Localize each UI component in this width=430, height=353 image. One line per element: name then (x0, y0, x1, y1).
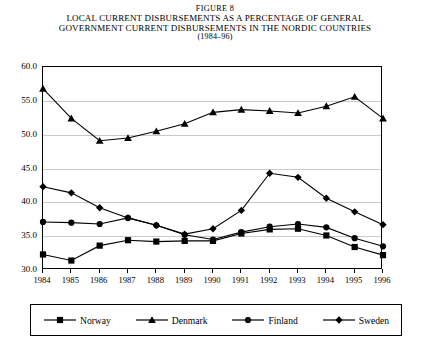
diamond-marker-icon (322, 314, 356, 326)
x-axis-tick-label: 1988 (147, 275, 164, 285)
x-axis-tick (127, 269, 128, 273)
x-axis-tick-label: 1987 (118, 275, 135, 285)
y-axis-tick-label: 50.0 (21, 129, 37, 139)
x-axis-tick-label: 1984 (33, 275, 50, 285)
legend-label: Denmark (172, 315, 208, 326)
y-axis-tick-label: 55.0 (21, 95, 37, 105)
chart-legend: NorwayDenmarkFinlandSweden (30, 304, 402, 336)
series-denmark (39, 85, 387, 144)
x-axis-tick (382, 269, 383, 273)
circle-marker-icon (231, 314, 265, 326)
legend-label: Sweden (359, 315, 389, 326)
x-axis-tick (155, 269, 156, 273)
x-axis-tick (212, 269, 213, 273)
x-axis-tick (99, 269, 100, 273)
figure-title-line-1: LOCAL CURRENT DISBURSEMENTS AS A PERCENT… (0, 13, 430, 23)
triangle-marker-icon (135, 314, 169, 326)
x-axis-tick-label: 1991 (232, 275, 249, 285)
figure-subtitle: (1984–96) (0, 33, 430, 42)
plot-region (42, 66, 382, 269)
x-axis-tick (297, 269, 298, 273)
x-axis-tick (240, 269, 241, 273)
y-axis-tick-label: 30.0 (21, 264, 37, 274)
x-axis-tick (354, 269, 355, 273)
legend-item-norway[interactable]: Norway (43, 314, 111, 326)
data-series-layer (43, 67, 383, 270)
x-axis-tick-label: 1986 (90, 275, 107, 285)
series-sweden (39, 170, 386, 238)
legend-item-sweden[interactable]: Sweden (322, 314, 389, 326)
chart-area: 30.035.040.045.050.055.060.0 19841985198… (0, 61, 430, 293)
x-axis-tick (42, 269, 43, 273)
x-axis-tick-label: 1985 (62, 275, 79, 285)
legend-item-finland[interactable]: Finland (231, 314, 297, 326)
x-axis-tick (325, 269, 326, 273)
y-axis-tick-label: 40.0 (21, 196, 37, 206)
title-block: FIGURE 8 LOCAL CURRENT DISBURSEMENTS AS … (0, 0, 430, 42)
legend-item-denmark[interactable]: Denmark (135, 314, 208, 326)
x-axis-tick (269, 269, 270, 273)
square-marker-icon (43, 314, 77, 326)
x-axis-tick (70, 269, 71, 273)
x-axis-tick-label: 1993 (288, 275, 305, 285)
x-axis-tick-label: 1990 (203, 275, 220, 285)
x-axis-tick-label: 1996 (373, 275, 390, 285)
y-axis-tick-label: 60.0 (21, 61, 37, 71)
figure-8-chart: FIGURE 8 LOCAL CURRENT DISBURSEMENTS AS … (0, 0, 430, 353)
legend-label: Norway (80, 315, 111, 326)
legend-label: Finland (268, 315, 297, 326)
x-axis-tick-label: 1992 (260, 275, 277, 285)
figure-label: FIGURE 8 (0, 4, 430, 13)
x-axis-tick (184, 269, 185, 273)
y-axis-labels: 30.035.040.045.050.055.060.0 (0, 61, 40, 293)
x-axis-tick-label: 1989 (175, 275, 192, 285)
y-axis-tick-label: 45.0 (21, 163, 37, 173)
y-axis-tick-label: 35.0 (21, 230, 37, 240)
x-axis-tick-label: 1995 (345, 275, 362, 285)
x-axis-tick-label: 1994 (317, 275, 334, 285)
x-axis-labels: 1984198519861987198819891990199119921993… (42, 269, 382, 293)
